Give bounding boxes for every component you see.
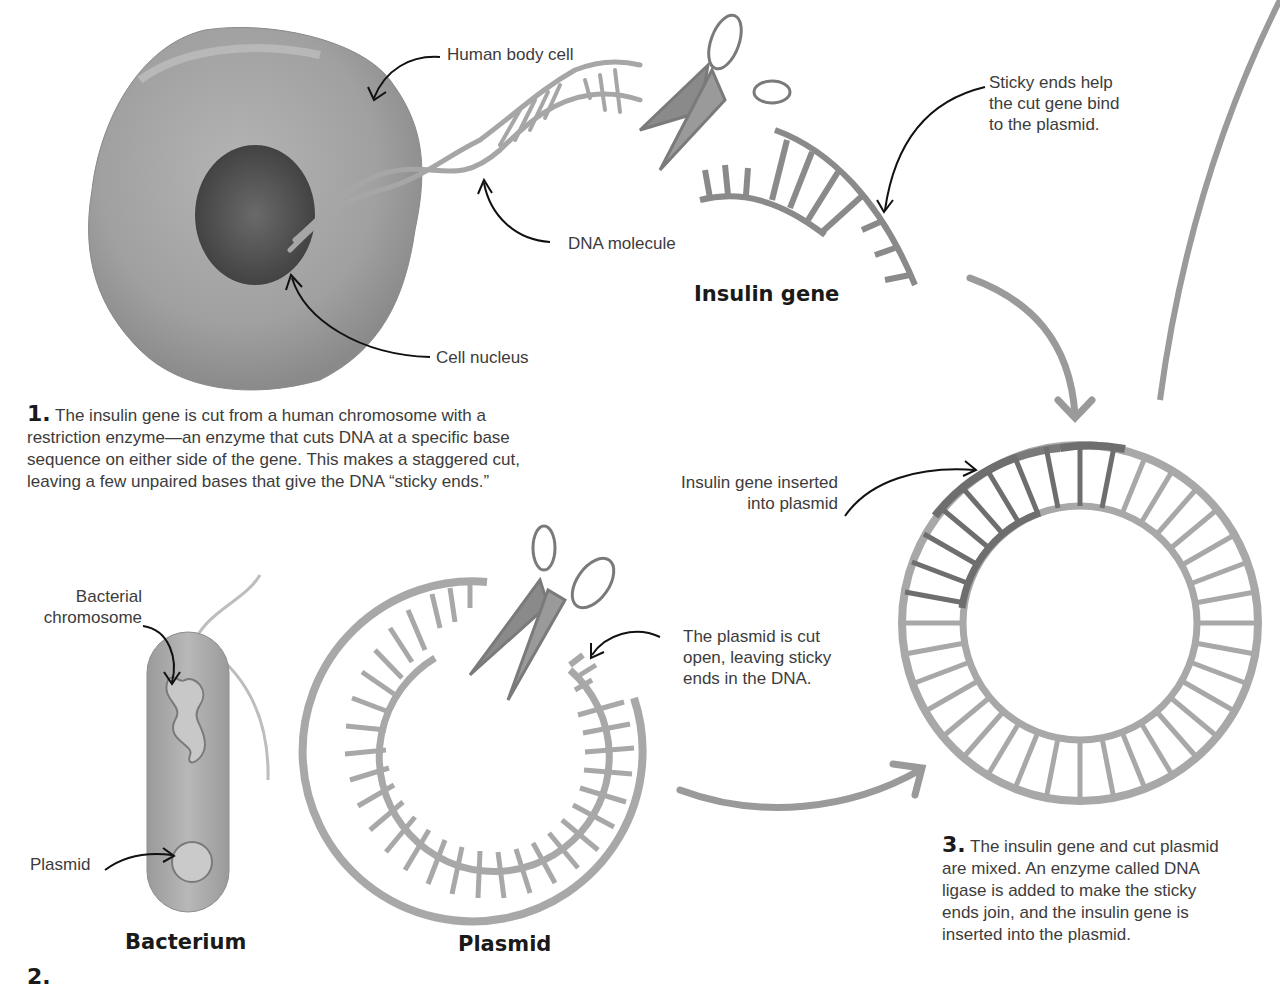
step-2-number: 2. — [27, 966, 51, 988]
step-1-caption: 1. The insulin gene is cut from a human … — [27, 403, 547, 493]
human-body-cell — [89, 27, 422, 390]
scissors-icon — [640, 11, 790, 170]
title-bacterium: Bacterium — [125, 930, 246, 954]
label-cell-nucleus: Cell nucleus — [436, 347, 529, 368]
label-sticky-ends: Sticky ends help the cut gene bind to th… — [989, 72, 1119, 135]
bacterial-plasmid — [172, 842, 212, 882]
label-plasmid-cut: The plasmid is cut open, leaving sticky … — [683, 626, 831, 689]
label-plasmid: Plasmid — [30, 854, 90, 875]
label-insulin-gene-inserted: Insulin gene inserted into plasmid — [640, 472, 838, 514]
recombinant-plasmid — [902, 445, 1258, 801]
cell-nucleus — [195, 145, 315, 285]
title-plasmid: Plasmid — [458, 932, 551, 956]
cut-plasmid — [303, 581, 643, 921]
step-3-caption: 3. The insulin gene and cut plasmid are … — [942, 834, 1232, 946]
flow-arrow-down — [970, 278, 1092, 418]
flow-arrow-right — [1160, 0, 1280, 400]
label-bacterial-chromosome: Bacterial chromosome — [20, 586, 142, 628]
flow-arrow-mix — [680, 764, 922, 807]
scissors-icon-bottom — [470, 526, 622, 700]
label-human-body-cell: Human body cell — [447, 44, 574, 65]
insulin-gene-fragment — [700, 130, 915, 285]
label-dna-molecule: DNA molecule — [568, 233, 676, 254]
title-insulin-gene: Insulin gene — [694, 282, 839, 306]
